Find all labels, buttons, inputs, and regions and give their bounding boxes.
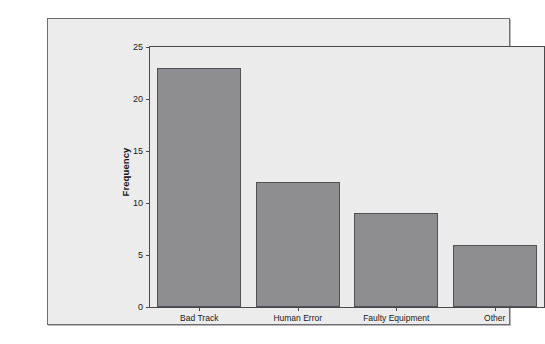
- x-axis-tick-mark: [495, 307, 496, 311]
- figure-frame: Frequency 0510152025 Bad TrackHuman Erro…: [47, 18, 510, 325]
- x-axis-tick-mark: [298, 307, 299, 311]
- y-axis-tick-label: 5: [138, 251, 150, 260]
- y-axis-tick-label: 20: [133, 95, 150, 104]
- x-axis-tick-label: Human Error: [273, 314, 322, 323]
- y-axis-title: Frequency: [120, 147, 131, 196]
- bar: [157, 68, 241, 307]
- y-axis-tick-label: 25: [133, 43, 150, 52]
- x-axis-tick-mark: [199, 307, 200, 311]
- bar: [256, 182, 340, 307]
- x-axis-tick-mark: [396, 307, 397, 311]
- plot-area: 0510152025 Bad TrackHuman ErrorFaulty Eq…: [149, 46, 545, 308]
- y-axis-tick-label: 10: [133, 199, 150, 208]
- bar: [354, 213, 438, 307]
- x-axis-tick-label: Faulty Equipment: [363, 314, 429, 323]
- y-axis-tick-label: 0: [138, 303, 150, 312]
- bars-layer: [150, 47, 544, 307]
- y-axis-tick-label: 15: [133, 147, 150, 156]
- bar: [453, 245, 537, 307]
- x-axis-tick-label: Bad Track: [180, 314, 218, 323]
- x-axis-tick-label: Other: [484, 314, 505, 323]
